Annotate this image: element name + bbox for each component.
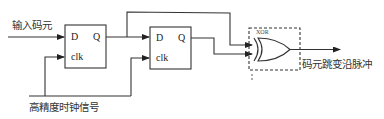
ff2-q-to-xor-wire — [191, 38, 252, 54]
ff1-clk-pin-label: clk — [71, 51, 83, 62]
ff2-d-pin-label: D — [156, 32, 163, 43]
xor-gate-extra-arc — [254, 38, 258, 61]
xor-gate-icon — [258, 38, 290, 61]
ff1-q-to-xor-wire — [127, 12, 252, 45]
ff2-q-pin-label: Q — [178, 32, 185, 43]
ff1-d-pin-label: D — [71, 31, 78, 42]
clock-to-ff2-wire — [131, 58, 149, 96]
data-input-label: 输入码元 — [12, 19, 52, 31]
ff2-clk-pin-label: clk — [156, 52, 168, 63]
output-label: 码元跳变沿脉冲 — [302, 58, 372, 70]
clock-input-label: 高精度时钟信号 — [29, 101, 99, 113]
clock-to-ff1-wire — [45, 57, 64, 96]
ff1-q-pin-label: Q — [93, 31, 100, 42]
xor-type-label: XOR — [256, 29, 269, 36]
